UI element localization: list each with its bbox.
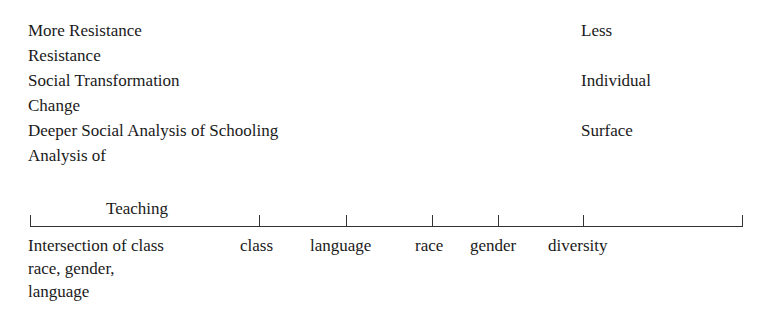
left-label-5: Deeper Social Analysis of Schooling — [28, 120, 278, 142]
tick-1 — [259, 215, 260, 227]
scale-label-intersection-2: race, gender, — [28, 258, 115, 280]
tick-5 — [583, 215, 584, 227]
scale-label-class: class — [240, 235, 273, 257]
left-label-6: Analysis of — [28, 145, 106, 167]
left-label-3: Social Transformation — [28, 70, 180, 92]
scale-title: Teaching — [106, 198, 168, 220]
tick-2 — [346, 215, 347, 227]
scale-label-race: race — [415, 235, 443, 257]
scale-label-diversity: diversity — [548, 235, 608, 257]
scale-label-language: language — [310, 235, 371, 257]
scale-label-intersection-1: Intersection of class — [28, 235, 164, 257]
tick-6 — [742, 215, 743, 227]
left-label-1: More Resistance — [28, 20, 142, 42]
left-label-4: Change — [28, 95, 80, 117]
right-label-individual: Individual — [581, 70, 651, 92]
scale-label-gender: gender — [470, 235, 516, 257]
scale-label-intersection-3: language — [28, 281, 89, 303]
tick-4 — [498, 215, 499, 227]
left-label-2: Resistance — [28, 45, 101, 67]
right-label-surface: Surface — [581, 120, 633, 142]
tick-3 — [432, 215, 433, 227]
tick-0 — [30, 215, 31, 227]
scale-line — [30, 226, 743, 227]
right-label-less: Less — [581, 20, 612, 42]
